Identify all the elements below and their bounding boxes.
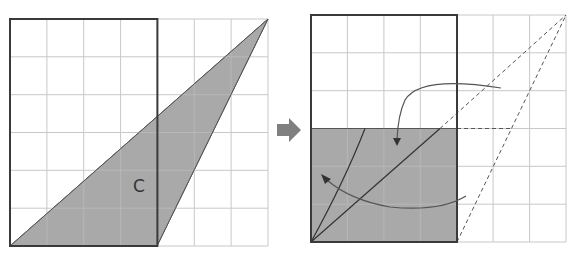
label-c: C — [133, 176, 145, 196]
left-panel: C — [10, 19, 268, 246]
area-rearrangement-diagram: C — [0, 0, 572, 257]
right-panel — [311, 15, 566, 242]
right-arrow-icon — [277, 118, 301, 142]
